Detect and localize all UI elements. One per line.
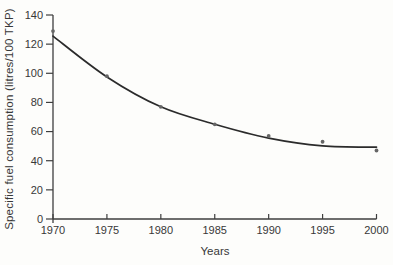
y-tick-label: 0 (37, 213, 43, 225)
y-tick-label: 40 (31, 155, 43, 167)
x-tick-label: 1975 (95, 224, 119, 236)
x-tick-label: 1985 (203, 224, 227, 236)
x-tick-label: 1990 (256, 224, 280, 236)
data-point (159, 105, 163, 109)
x-tick-label: 1970 (41, 224, 65, 236)
y-tick-label: 100 (25, 67, 43, 79)
x-tick-label: 2000 (364, 224, 388, 236)
x-tick-label: 1995 (310, 224, 334, 236)
data-point (267, 134, 271, 138)
x-axis-label: Years (201, 245, 230, 257)
y-tick-label: 120 (25, 38, 43, 50)
y-tick-label: 140 (25, 9, 43, 21)
fuel-consumption-chart: Specific fuel consumption (litres/100 TK… (0, 0, 393, 265)
data-point (375, 149, 379, 153)
data-point (321, 140, 325, 144)
x-tick-label: 1980 (149, 224, 173, 236)
data-point (213, 122, 217, 126)
y-tick-label: 60 (31, 125, 43, 137)
data-point (51, 29, 55, 33)
trend-curve (53, 36, 377, 147)
plot-area: 0204060801001201401970197519801985199019… (0, 0, 393, 265)
y-tick-label: 80 (31, 96, 43, 108)
y-tick-label: 20 (31, 184, 43, 196)
data-point (105, 74, 109, 78)
